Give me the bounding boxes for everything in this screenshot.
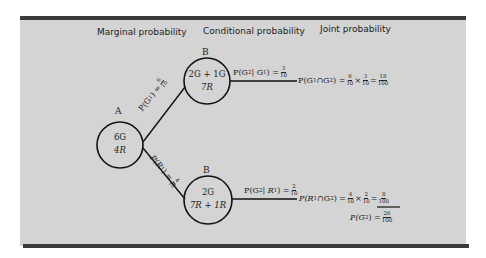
header-marginal-probability: Marginal probability xyxy=(97,27,187,37)
marginal-total: P(G2) = 26100 xyxy=(350,211,393,223)
conditional-bottom: P(G2 | R1) = 210 xyxy=(244,184,299,196)
fraction: 610 xyxy=(346,74,353,86)
fraction: 310 xyxy=(280,66,287,78)
tree-lines xyxy=(0,0,486,258)
conditional-top: P(G2 | G1) = 310 xyxy=(233,66,288,78)
fraction: 410 xyxy=(347,192,354,204)
node-a-label: A xyxy=(115,106,122,116)
node-b-bottom-label: B xyxy=(203,165,210,175)
fraction: 210 xyxy=(363,192,370,204)
node-b-bottom-red: 7R + 1R xyxy=(183,199,233,212)
header-conditional-probability: Conditional probability xyxy=(203,26,305,36)
node-b-top-contents: 2G + 1G 7R xyxy=(182,68,232,94)
header-joint-probability: Joint probability xyxy=(320,24,391,34)
node-a-green: 6G xyxy=(100,131,140,144)
fraction: 8100 xyxy=(378,192,389,204)
node-b-bottom-contents: 2G 7R + 1R xyxy=(183,186,233,212)
joint-top: P(G1∩G2) = 610 × 310 = 18100 xyxy=(298,74,389,86)
node-b-top-red: 7R xyxy=(182,81,232,94)
fraction: 310 xyxy=(362,74,369,86)
node-a-contents: 6G 4R xyxy=(100,131,140,157)
node-b-top-label: B xyxy=(202,47,209,57)
node-a-red: 4R xyxy=(100,144,140,157)
fraction: 18100 xyxy=(378,74,389,86)
fraction: 210 xyxy=(291,184,298,196)
node-b-bottom-green: 2G xyxy=(183,186,233,199)
node-b-top-green: 2G + 1G xyxy=(182,68,232,81)
fraction: 26100 xyxy=(382,211,393,223)
joint-bottom: P(R1∩G2) = 410 × 210 = 8100 xyxy=(299,192,390,204)
